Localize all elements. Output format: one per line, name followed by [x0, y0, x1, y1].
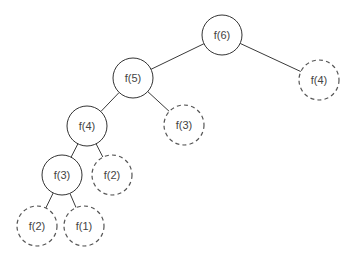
tree-node-n3: f(3): [42, 155, 82, 195]
node-label: f(6): [214, 29, 231, 41]
edge-n5-n3r: [148, 92, 170, 112]
tree-node-n3r: f(3): [164, 105, 204, 145]
tree-node-n4: f(4): [67, 106, 107, 146]
node-label: f(5): [125, 72, 142, 84]
edge-n4-n2r: [96, 144, 103, 157]
node-label: f(4): [311, 74, 328, 86]
node-label: f(4): [79, 120, 96, 132]
node-label: f(3): [54, 169, 71, 181]
edge-n6-n4r: [240, 43, 301, 71]
tree-node-n6: f(6): [202, 15, 242, 55]
edge-n3-n2: [46, 193, 53, 208]
tree-node-n4r: f(4): [299, 60, 339, 100]
node-label: f(3): [176, 119, 193, 131]
edge-n6-n5: [151, 44, 204, 70]
tree-node-n2: f(2): [17, 206, 57, 246]
nodes: f(6)f(5)f(4)f(4)f(3)f(3)f(2)f(2)f(1): [17, 15, 339, 246]
tree-node-n1: f(1): [64, 206, 104, 246]
tree-node-n2r: f(2): [92, 155, 132, 195]
tree-node-n5: f(5): [113, 58, 153, 98]
node-label: f(1): [76, 220, 93, 232]
edge-n5-n4: [101, 92, 119, 111]
node-label: f(2): [29, 220, 46, 232]
edge-n4-n3: [71, 144, 78, 157]
node-label: f(2): [104, 169, 121, 181]
edge-n3-n1: [70, 193, 76, 207]
recursion-tree-diagram: f(6)f(5)f(4)f(4)f(3)f(3)f(2)f(2)f(1): [0, 0, 354, 263]
